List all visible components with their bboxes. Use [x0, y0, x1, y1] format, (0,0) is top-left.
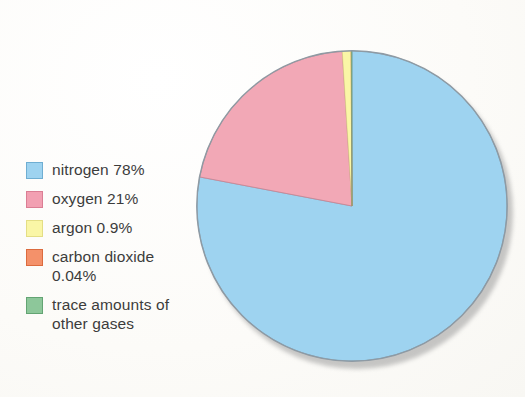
- legend-label-oxygen: oxygen 21%: [52, 189, 138, 208]
- legend-label-argon: argon 0.9%: [52, 218, 132, 237]
- legend-item-nitrogen[interactable]: nitrogen 78%: [26, 160, 202, 179]
- legend-item-oxygen[interactable]: oxygen 21%: [26, 189, 202, 208]
- pie-slices: [196, 50, 508, 362]
- pie-chart: [196, 50, 508, 362]
- pie-chart-figure: nitrogen 78% oxygen 21% argon 0.9% carbo…: [0, 0, 525, 397]
- legend-swatch-trace-gases-icon: [26, 297, 43, 314]
- legend-item-carbon-dioxide[interactable]: carbon dioxide 0.04%: [26, 247, 202, 285]
- legend-label-trace-gases: trace amounts of other gases: [52, 295, 169, 333]
- legend-item-argon[interactable]: argon 0.9%: [26, 218, 202, 237]
- legend: nitrogen 78% oxygen 21% argon 0.9% carbo…: [26, 160, 202, 343]
- legend-label-carbon-dioxide: carbon dioxide 0.04%: [52, 247, 154, 285]
- legend-item-trace-gases[interactable]: trace amounts of other gases: [26, 295, 202, 333]
- legend-swatch-oxygen-icon: [26, 191, 43, 208]
- legend-swatch-nitrogen-icon: [26, 162, 43, 179]
- legend-label-nitrogen: nitrogen 78%: [52, 160, 145, 179]
- legend-swatch-argon-icon: [26, 220, 43, 237]
- legend-swatch-carbon-dioxide-icon: [26, 249, 43, 266]
